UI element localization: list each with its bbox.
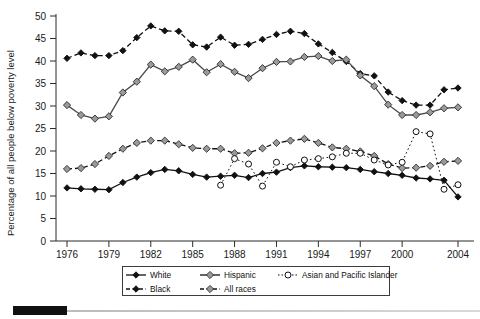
data-point-marker: [343, 150, 349, 156]
y-tick-label: 50: [35, 11, 47, 22]
data-point-marker: [455, 182, 461, 188]
data-point-marker: [287, 58, 294, 65]
data-point-marker: [217, 61, 224, 68]
data-point-marker: [287, 164, 293, 170]
footer-rule: [34, 310, 480, 312]
data-point-marker: [301, 157, 307, 163]
data-point-marker: [287, 28, 293, 34]
y-tick-label: 25: [35, 123, 47, 134]
data-point-marker: [413, 102, 419, 108]
data-point-marker: [105, 113, 112, 120]
x-tick-label: 1982: [140, 249, 163, 260]
series-asian-and-pacific-islander: [218, 129, 461, 193]
y-tick-label: 45: [35, 33, 47, 44]
data-point-marker: [231, 68, 238, 75]
data-point-marker: [245, 41, 251, 47]
data-point-marker: [427, 131, 433, 137]
data-point-marker: [343, 164, 349, 170]
data-point-marker: [357, 150, 363, 156]
data-point-marker: [260, 183, 266, 189]
data-point-marker: [162, 166, 168, 172]
x-axis-ticks: 1976197919821985198819911994199720002004: [56, 241, 470, 260]
legend-marker-icon: [277, 270, 299, 280]
x-tick-label: 2000: [391, 249, 414, 260]
y-axis-title: Percentage of all people below poverty l…: [5, 50, 16, 236]
x-tick-label: 1979: [98, 249, 121, 260]
data-point-marker: [161, 137, 168, 144]
data-point-marker: [119, 145, 126, 152]
data-point-marker: [441, 87, 447, 93]
data-point-marker: [413, 111, 420, 118]
data-point-marker: [106, 52, 112, 58]
data-point-marker: [217, 145, 224, 152]
data-point-marker: [105, 152, 112, 159]
legend-label: Asian and Pacific Islander: [302, 271, 397, 279]
data-point-marker: [245, 149, 252, 156]
poverty-rate-chart: Percentage of all people below poverty l…: [0, 0, 480, 319]
data-point-marker: [231, 42, 237, 48]
series-line: [221, 132, 458, 190]
y-tick-label: 35: [35, 78, 47, 89]
y-tick-label: 30: [35, 101, 47, 112]
data-point-marker: [259, 170, 265, 176]
data-point-marker: [78, 186, 84, 192]
data-point-marker: [399, 97, 405, 103]
data-point-marker: [329, 154, 335, 160]
data-point-marker: [92, 52, 98, 58]
data-point-marker: [232, 156, 238, 162]
legend-item-allraces[interactable]: All races: [199, 284, 277, 294]
series-all-races: [63, 135, 461, 172]
data-point-marker: [218, 182, 224, 188]
data-point-marker: [203, 174, 209, 180]
data-point-marker: [148, 169, 154, 175]
data-point-marker: [273, 31, 279, 37]
legend-item-white[interactable]: White: [125, 270, 199, 280]
data-point-marker: [441, 186, 447, 192]
legend-marker-icon: [199, 270, 221, 280]
data-point-marker: [162, 28, 168, 34]
data-point-marker: [440, 158, 447, 165]
data-point-marker: [106, 187, 112, 193]
data-point-marker: [301, 53, 308, 60]
y-tick-label: 5: [40, 213, 46, 224]
data-point-marker: [371, 157, 377, 163]
data-point-marker: [427, 176, 433, 182]
data-point-marker: [427, 102, 433, 108]
data-point-marker: [329, 144, 336, 151]
data-point-marker: [315, 41, 321, 47]
x-tick-label: 1997: [349, 249, 372, 260]
data-point-marker: [329, 164, 335, 170]
legend-item-asian[interactable]: Asian and Pacific Islander: [277, 270, 393, 280]
x-tick-label: 1991: [265, 249, 288, 260]
data-point-marker: [426, 162, 433, 169]
data-point-marker: [259, 145, 266, 152]
legend-item-hispanic[interactable]: Hispanic: [199, 270, 277, 280]
data-point-marker: [385, 170, 391, 176]
data-point-marker: [64, 185, 70, 191]
data-point-marker: [315, 52, 322, 59]
data-point-marker: [134, 174, 140, 180]
data-point-marker: [120, 179, 126, 185]
data-point-marker: [399, 172, 405, 178]
data-point-marker: [454, 157, 461, 164]
data-point-marker: [426, 109, 433, 116]
legend-item-black[interactable]: Black: [125, 284, 199, 294]
data-point-marker: [440, 105, 447, 112]
data-point-marker: [176, 168, 182, 174]
data-point-marker: [63, 165, 70, 172]
x-tick-label: 1994: [307, 249, 330, 260]
data-point-marker: [329, 57, 336, 64]
legend-marker-icon: [125, 270, 147, 280]
footer-black-tab: [13, 306, 67, 315]
y-tick-label: 40: [35, 56, 47, 67]
data-point-marker: [91, 115, 98, 122]
data-point-marker: [120, 47, 126, 53]
y-tick-label: 10: [35, 191, 47, 202]
data-point-marker: [64, 55, 70, 61]
data-point-marker: [329, 49, 335, 55]
legend-label: Hispanic: [224, 271, 256, 279]
data-point-marker: [385, 162, 391, 168]
data-point-marker: [176, 28, 182, 34]
data-point-marker: [245, 174, 251, 180]
data-point-marker: [454, 104, 461, 111]
